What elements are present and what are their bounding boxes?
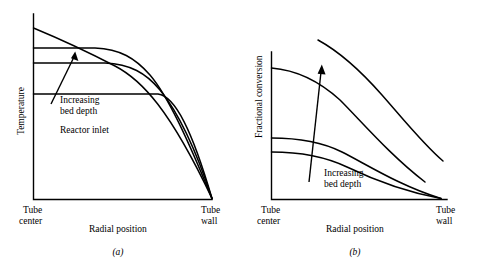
panel-a-xtick-left-line1: Tube — [23, 205, 42, 215]
panel-a-xtick-right-line1: Tube — [201, 205, 220, 215]
figure-root: Temperature Tube center Tube wall Radial… — [0, 0, 478, 270]
panel-b-curve-bed-depth-3 — [272, 68, 426, 182]
panel-a-xlabel: Radial position — [89, 224, 147, 234]
panel-b-xtick-left-line2: center — [257, 216, 281, 226]
figure-svg: Temperature Tube center Tube wall Radial… — [0, 0, 478, 270]
panel-b-label: (b) — [349, 247, 360, 258]
panel-b-xlabel: Radial position — [326, 224, 384, 234]
panel-b: Fractional conversion Tube center Tube w… — [254, 40, 455, 258]
panel-a-annot-increasing-line1: Increasing — [60, 95, 100, 105]
panel-b-ylabel: Fractional conversion — [254, 55, 264, 138]
panel-a-label: (a) — [112, 247, 123, 258]
panel-b-increasing-arrow-head — [318, 65, 326, 75]
panel-a-ylabel: Temperature — [16, 87, 26, 135]
panel-a-annot-increasing-line2: bed depth — [60, 106, 97, 116]
panel-b-xtick-left-line1: Tube — [261, 205, 280, 215]
panel-a-xtick-left-line2: center — [19, 216, 43, 226]
panel-b-xtick-right-line2: wall — [436, 216, 453, 226]
panel-b-xtick-right-line1: Tube — [436, 205, 455, 215]
panel-b-annot-increasing-line1: Increasing — [324, 168, 364, 178]
panel-b-increasing-arrow-shaft — [309, 72, 321, 182]
panel-a: Temperature Tube center Tube wall Radial… — [16, 14, 220, 258]
panel-b-annot-increasing-line2: bed depth — [324, 179, 361, 189]
panel-a-annot-reactor-inlet: Reactor inlet — [60, 125, 109, 135]
panel-a-xtick-right-line2: wall — [201, 216, 218, 226]
